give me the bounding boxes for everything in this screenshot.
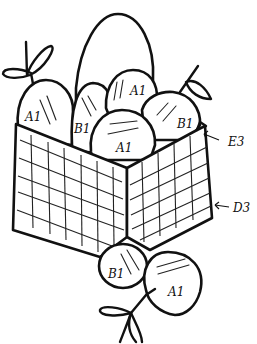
basket-diagram: A1 B1 A1 B1 A1 (0, 0, 257, 344)
egg-right-label: B1 (176, 117, 193, 131)
egg-mid-left-label: B1 (73, 122, 90, 136)
balloon-left-label: B1 (107, 267, 124, 281)
callout-side-label: D3 (232, 201, 251, 215)
balloon-left: B1 (99, 244, 147, 288)
callout-rim: E3 (204, 131, 245, 149)
balloon-right-label: A1 (167, 285, 184, 299)
balloon-right: A1 (144, 252, 201, 315)
bow-left-icon (3, 42, 53, 84)
balloon-bow-icon (100, 289, 155, 342)
egg-left-label: A1 (24, 110, 41, 124)
egg-front-label: A1 (115, 141, 132, 155)
callout-rim-label: E3 (227, 135, 245, 149)
callout-side: D3 (215, 201, 251, 215)
leaf-right-icon (180, 66, 211, 99)
egg-top-middle-label: A1 (129, 84, 146, 98)
basket-drawing: A1 B1 A1 B1 A1 (0, 0, 257, 344)
